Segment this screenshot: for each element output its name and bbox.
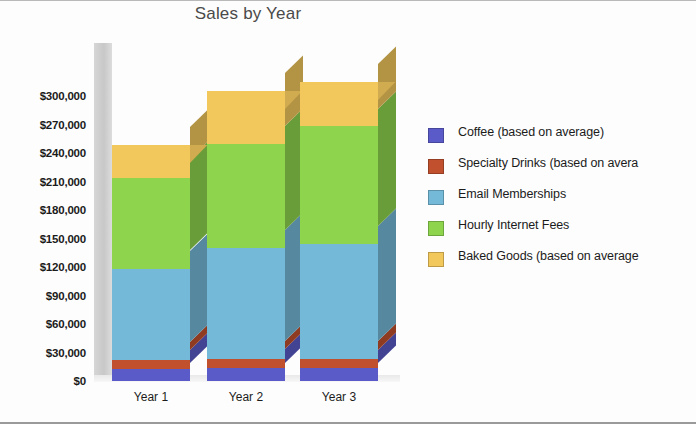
legend-swatch — [428, 190, 444, 205]
bar-side-segment — [190, 234, 208, 343]
y-axis-tick-label: $120,000 — [4, 261, 86, 273]
bar-segment[interactable] — [300, 82, 378, 127]
y-axis-tick-label: $210,000 — [4, 176, 86, 188]
y-axis-tick-label: $180,000 — [4, 204, 86, 216]
bar-segment[interactable] — [207, 144, 285, 248]
chart-back-wall — [94, 43, 112, 381]
bar-segment[interactable] — [112, 145, 190, 177]
x-axis-tick-label: Year 3 — [279, 390, 399, 404]
legend-label: Email Memberships — [458, 187, 566, 201]
legend-swatch — [428, 159, 444, 174]
bar-column[interactable] — [207, 73, 303, 381]
bar-segment[interactable] — [112, 178, 190, 269]
bar-column[interactable] — [112, 127, 208, 381]
plot-area: $300,000$270,000$240,000$210,000$180,000… — [0, 1, 420, 401]
bar-segment[interactable] — [112, 269, 190, 360]
chart-legend: Coffee (based on average)Specialty Drink… — [428, 123, 696, 278]
legend-label: Coffee (based on average) — [458, 125, 604, 139]
sales-by-year-chart: Sales by Year $300,000$270,000$240,000$2… — [0, 0, 696, 424]
y-axis-tick-label: $240,000 — [4, 147, 86, 159]
bar-segment[interactable] — [207, 248, 285, 359]
legend-swatch — [428, 221, 444, 236]
legend-item[interactable]: Specialty Drinks (based on avera — [428, 154, 696, 185]
y-axis-tick-label: $270,000 — [4, 119, 86, 131]
bar-front-face — [207, 91, 285, 381]
legend-label: Specialty Drinks (based on avera — [458, 156, 638, 170]
legend-item[interactable]: Email Memberships — [428, 185, 696, 216]
legend-item[interactable]: Baked Goods (based on average — [428, 247, 696, 278]
bar-segment[interactable] — [300, 368, 378, 381]
bar-segment[interactable] — [112, 360, 190, 369]
bar-side-segment — [378, 91, 396, 226]
bar-front-face — [112, 145, 190, 381]
y-axis-tick-label: $150,000 — [4, 233, 86, 245]
legend-swatch — [428, 128, 444, 143]
legend-item[interactable]: Hourly Internet Fees — [428, 216, 696, 247]
bar-segment[interactable] — [300, 244, 378, 359]
bar-segment[interactable] — [112, 369, 190, 381]
bar-column[interactable] — [300, 64, 396, 381]
bar-segment[interactable] — [207, 359, 285, 368]
bar-segment[interactable] — [207, 368, 285, 381]
bar-segment[interactable] — [300, 359, 378, 368]
y-axis-tick-label: $300,000 — [4, 90, 86, 102]
bar-front-face — [300, 82, 378, 381]
legend-label: Hourly Internet Fees — [458, 218, 569, 232]
y-axis-tick-label: $60,000 — [4, 318, 86, 330]
bar-side-segment — [378, 209, 396, 341]
legend-label: Baked Goods (based on average — [458, 249, 639, 263]
legend-swatch — [428, 252, 444, 267]
y-axis-tick-label: $30,000 — [4, 347, 86, 359]
y-axis-tick-label: $90,000 — [4, 290, 86, 302]
legend-item[interactable]: Coffee (based on average) — [428, 123, 696, 154]
bar-segment[interactable] — [207, 91, 285, 144]
y-axis: $300,000$270,000$240,000$210,000$180,000… — [0, 1, 86, 401]
bar-segment[interactable] — [300, 126, 378, 244]
y-axis-tick-label: $0 — [4, 375, 86, 387]
